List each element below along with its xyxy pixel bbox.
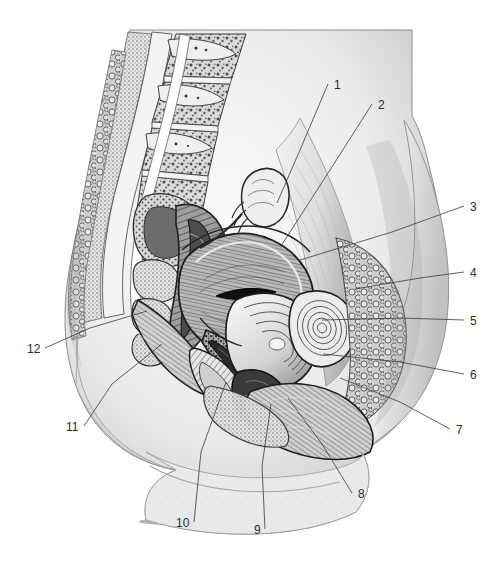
callout-number-8: 8	[358, 488, 365, 500]
callout-number-1: 1	[334, 79, 341, 91]
callout-number-6: 6	[470, 369, 477, 381]
callout-number-12: 12	[27, 343, 40, 355]
leader-line-2	[281, 104, 372, 246]
leader-line-8	[288, 398, 352, 493]
callout-number-3: 3	[470, 201, 477, 213]
leader-line-3	[300, 206, 464, 260]
anatomical-figure: 123456789101112	[0, 0, 503, 568]
leader-line-4	[355, 272, 464, 289]
callout-number-11: 11	[66, 421, 78, 433]
callout-number-5: 5	[470, 315, 477, 327]
callout-number-4: 4	[470, 267, 477, 279]
leader-line-9	[262, 404, 271, 529]
leader-line-7	[340, 378, 450, 429]
callout-number-7: 7	[456, 424, 463, 436]
leader-line-6	[323, 354, 464, 374]
leader-line-5	[322, 318, 464, 320]
leader-line-11	[84, 344, 162, 426]
callout-number-9: 9	[254, 524, 261, 536]
callout-number-2: 2	[378, 99, 385, 111]
callout-number-10: 10	[176, 517, 189, 529]
leader-line-12	[45, 311, 147, 348]
leader-lines-layer	[0, 0, 503, 568]
leader-line-10	[194, 382, 226, 522]
